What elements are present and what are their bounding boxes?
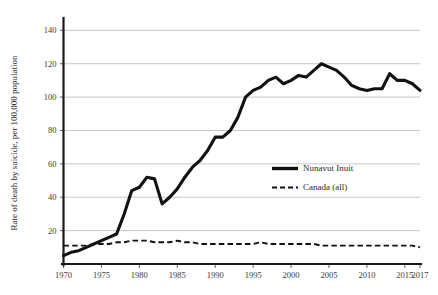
x-tick-label-1975: 1975 bbox=[93, 270, 110, 280]
series-line-nunavut-inuit bbox=[64, 64, 421, 256]
axis-tickmarks bbox=[60, 30, 420, 268]
legend-label-nunavut-inuit: Nunavut Inuit bbox=[303, 163, 354, 173]
x-tick-label-1985: 1985 bbox=[169, 270, 186, 280]
x-tick-label-1970: 1970 bbox=[55, 270, 72, 280]
x-tick-label-1995: 1995 bbox=[245, 270, 262, 280]
chart-legend: Nunavut Inuit Canada (all) bbox=[272, 163, 354, 192]
y-tick-label-20: 20 bbox=[48, 226, 57, 236]
gridlines bbox=[64, 30, 421, 230]
x-axis-tick-labels: 1970197519801985199019952000200520102015… bbox=[55, 270, 429, 280]
y-tick-label-80: 80 bbox=[48, 125, 57, 135]
y-axis-tick-labels: 20406080100120140 bbox=[44, 25, 57, 235]
y-tick-label-120: 120 bbox=[44, 59, 57, 69]
legend-label-canada-all: Canada (all) bbox=[303, 182, 347, 192]
x-tick-label-2000: 2000 bbox=[283, 270, 300, 280]
x-tick-label-1980: 1980 bbox=[131, 270, 148, 280]
series-line-canada-all bbox=[64, 241, 421, 248]
x-tick-label-2017: 2017 bbox=[412, 270, 429, 280]
x-tick-label-2005: 2005 bbox=[320, 270, 337, 280]
y-tick-label-40: 40 bbox=[48, 192, 57, 202]
y-tick-label-100: 100 bbox=[44, 92, 57, 102]
x-tick-label-1990: 1990 bbox=[207, 270, 224, 280]
suicide-rate-line-chart: 20406080100120140 1970197519801985199019… bbox=[0, 0, 438, 295]
y-tick-label-140: 140 bbox=[44, 25, 57, 35]
x-tick-label-2010: 2010 bbox=[358, 270, 375, 280]
y-tick-label-60: 60 bbox=[48, 159, 57, 169]
y-axis-title: Rate of death by suicide, per 100,000 po… bbox=[9, 55, 19, 231]
chart-canvas: 20406080100120140 1970197519801985199019… bbox=[0, 0, 438, 295]
